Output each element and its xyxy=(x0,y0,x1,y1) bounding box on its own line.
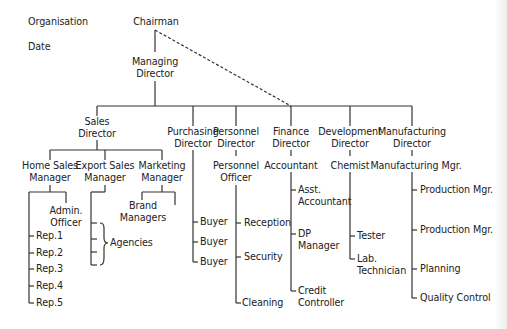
node-line: Finance xyxy=(272,126,310,138)
node-line: Director xyxy=(132,68,178,80)
node-home-sales-manager: Home SalesManager xyxy=(22,160,78,184)
node-agencies: Agencies xyxy=(110,237,153,249)
node-line: Director xyxy=(318,138,382,150)
node-lab-technician: Lab.Technician xyxy=(357,253,406,277)
node-reception: Reception xyxy=(244,217,291,229)
node-dp-manager: DPManager xyxy=(298,228,339,252)
node-rep: Rep.1 xyxy=(36,230,63,242)
node-asst-accountant: Asst.Accountant xyxy=(298,184,351,208)
node-manufacturing-mgr: Manufacturing Mgr. xyxy=(370,160,461,172)
node-accountant: Accountant xyxy=(264,160,317,172)
node-managing-director: ManagingDirector xyxy=(132,56,178,80)
node-line: Accountant xyxy=(298,196,351,208)
node-buyer: Buyer xyxy=(200,216,228,228)
node-line: Manager xyxy=(22,172,78,184)
node-rep: Rep.3 xyxy=(36,263,63,275)
node-sales-director: SalesDirector xyxy=(78,116,116,140)
node-line: Manager xyxy=(139,172,186,184)
node-rep: Rep.2 xyxy=(36,247,63,259)
node-line: Director xyxy=(378,138,446,150)
node-line: Export Sales xyxy=(76,160,135,172)
node-line: Officer xyxy=(213,172,259,184)
node-line: Personnel xyxy=(213,126,259,138)
node-line: Personnel xyxy=(213,160,259,172)
node-buyer: Buyer xyxy=(200,256,228,268)
node-line: Credit xyxy=(298,285,344,297)
node-line: Technician xyxy=(357,265,406,277)
node-line: Director xyxy=(213,138,259,150)
node-cleaning: Cleaning xyxy=(242,297,283,309)
node-finance-director: FinanceDirector xyxy=(272,126,310,150)
node-personnel-officer: PersonnelOfficer xyxy=(213,160,259,184)
node-credit-controller: CreditController xyxy=(298,285,344,309)
node-line: Home Sales xyxy=(22,160,78,172)
node-chairman: Chairman xyxy=(133,16,179,28)
node-line: Admin. xyxy=(49,205,82,217)
node-line: Director xyxy=(78,128,116,140)
node-chemist: Chemist xyxy=(331,160,370,172)
node-export-sales-manager: Export SalesManager xyxy=(76,160,135,184)
node-development-director: DevelopmentDirector xyxy=(318,126,382,150)
organisation-label: Organisation xyxy=(28,16,88,28)
node-rep: Rep.5 xyxy=(36,297,63,309)
node-line: Manager xyxy=(76,172,135,184)
node-admin-officer: Admin.Officer xyxy=(49,205,82,229)
node-production-mgr: Production Mgr. xyxy=(420,224,493,236)
node-tester: Tester xyxy=(357,230,385,242)
node-production-mgr: Production Mgr. xyxy=(420,184,493,196)
node-line: Marketing xyxy=(139,160,186,172)
node-security: Security xyxy=(244,251,283,263)
node-line: Brand xyxy=(120,200,166,212)
node-line: Asst. xyxy=(298,184,351,196)
node-line: Sales xyxy=(78,116,116,128)
node-personnel-director: PersonnelDirector xyxy=(213,126,259,150)
node-line: DP xyxy=(298,228,339,240)
node-marketing-manager: MarketingManager xyxy=(139,160,186,184)
node-line: Director xyxy=(272,138,310,150)
node-line: Purchasing xyxy=(167,126,219,138)
node-line: Managers xyxy=(120,212,166,224)
node-line: Manufacturing xyxy=(378,126,446,138)
node-line: Development xyxy=(318,126,382,138)
node-planning: Planning xyxy=(420,263,461,275)
node-rep: Rep.4 xyxy=(36,280,63,292)
node-manufacturing-director: ManufacturingDirector xyxy=(378,126,446,150)
node-line: Officer xyxy=(49,217,82,229)
node-line: Controller xyxy=(298,297,344,309)
node-quality-control: Quality Control xyxy=(420,292,491,304)
node-purchasing-director: PurchasingDirector xyxy=(167,126,219,150)
node-line: Manager xyxy=(298,240,339,252)
node-line: Director xyxy=(167,138,219,150)
node-line: Lab. xyxy=(357,253,406,265)
date-label: Date xyxy=(28,41,51,53)
node-line: Managing xyxy=(132,56,178,68)
node-buyer: Buyer xyxy=(200,236,228,248)
node-brand-managers: BrandManagers xyxy=(120,200,166,224)
